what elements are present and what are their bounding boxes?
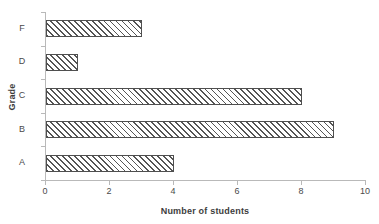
- x-tick-label-4: 4: [158, 186, 188, 196]
- y-tick-label-b: B: [8, 124, 36, 134]
- y-tick-0: [41, 12, 45, 13]
- x-tick-label-10: 10: [350, 186, 379, 196]
- x-tick-6: [237, 181, 238, 185]
- y-tick-2: [41, 79, 45, 80]
- y-tick-label-f: F: [8, 23, 36, 33]
- x-tick-label-6: 6: [222, 186, 252, 196]
- y-tick-label-a: A: [8, 157, 36, 167]
- x-axis-title: Number of students: [45, 206, 365, 216]
- y-tick-1: [41, 46, 45, 47]
- bar-b: [46, 121, 334, 138]
- x-tick-label-2: 2: [94, 186, 124, 196]
- x-tick-10: [365, 181, 366, 185]
- x-tick-label-8: 8: [286, 186, 316, 196]
- x-tick-8: [301, 181, 302, 185]
- x-axis-line: [45, 180, 366, 181]
- x-tick-2: [109, 181, 110, 185]
- y-tick-3: [41, 113, 45, 114]
- bar-f: [46, 20, 142, 37]
- x-tick-0: [45, 181, 46, 185]
- bar-chart: Grade F D C B A 0 2 4 6 8 10 Number of s…: [0, 0, 379, 224]
- x-tick-label-0: 0: [30, 186, 60, 196]
- y-tick-label-c: C: [8, 90, 36, 100]
- y-tick-label-d: D: [8, 56, 36, 66]
- bar-a: [46, 155, 174, 172]
- y-tick-4: [41, 146, 45, 147]
- x-tick-4: [173, 181, 174, 185]
- bar-d: [46, 54, 78, 71]
- bar-c: [46, 88, 302, 105]
